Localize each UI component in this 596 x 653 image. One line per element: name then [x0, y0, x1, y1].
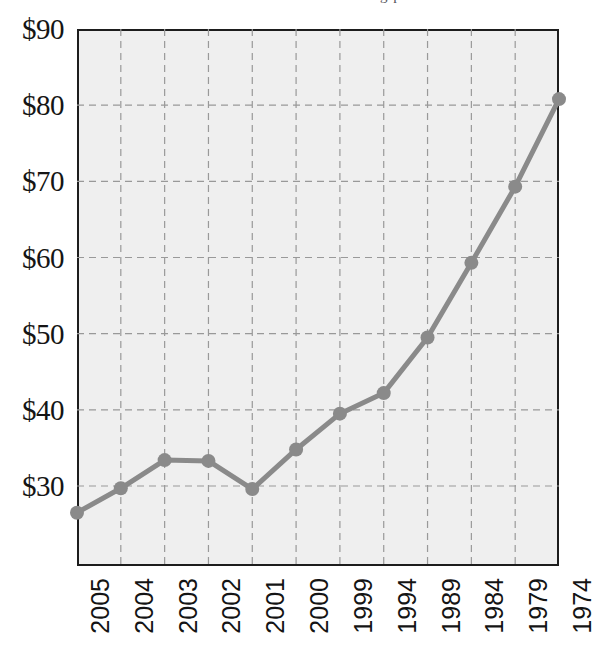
x-tick-label: 2003	[174, 578, 203, 634]
x-tick-label: 2005	[86, 578, 115, 634]
x-tick-label: 1979	[524, 578, 553, 634]
y-tick-label: $30	[22, 470, 64, 503]
y-tick-label: $90	[22, 13, 64, 46]
x-tick-label: 1999	[349, 578, 378, 634]
x-tick-label: 2001	[261, 578, 290, 634]
x-tick-label: 2000	[305, 578, 334, 634]
x-tick-label: 1994	[393, 578, 422, 634]
x-tick-label: 1984	[480, 578, 509, 634]
y-tick-label: $50	[22, 317, 64, 350]
y-tick-label: $80	[22, 89, 64, 122]
x-tick-label: 2004	[130, 578, 159, 634]
y-tick-label: $60	[22, 241, 64, 274]
y-tick-label: $40	[22, 393, 64, 426]
plot-area	[77, 29, 559, 566]
cropped-caption-fragment: g p	[0, 0, 579, 9]
x-axis: 2005200420032002200120001999199419891984…	[0, 566, 579, 653]
cropped-caption-text: g p	[380, 0, 402, 4]
x-tick-label: 2002	[217, 578, 246, 634]
y-tick-label: $70	[22, 165, 64, 198]
x-tick-label: 1989	[437, 578, 466, 634]
y-axis: $90$80$70$60$50$40$30	[0, 0, 72, 653]
x-tick-label: 1974	[568, 578, 596, 634]
